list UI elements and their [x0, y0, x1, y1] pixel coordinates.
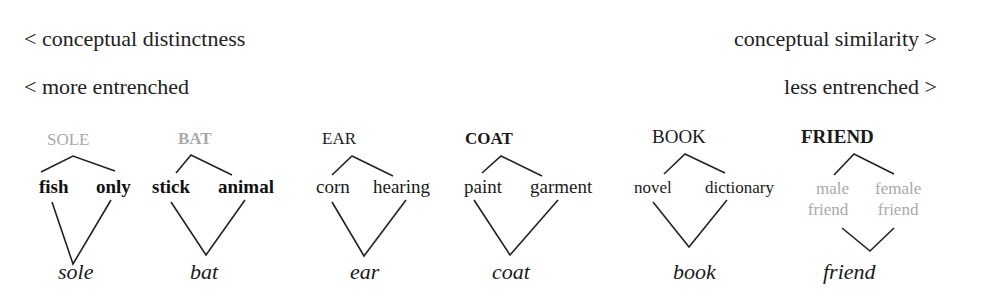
- book-top-chevron: [664, 154, 725, 174]
- friend-sense-female-friend: female friend: [875, 178, 921, 220]
- sole-top-chevron: [41, 156, 115, 172]
- bat-sense-stick: stick: [152, 177, 190, 197]
- bat-top-chevron: [176, 155, 232, 175]
- coat-sense-garment: garment: [530, 177, 592, 197]
- friend-sense-female-line1: female: [875, 178, 921, 199]
- ear-word-form: ear: [350, 260, 379, 284]
- sole-bottom-v: [52, 200, 111, 264]
- friend-word-form: friend: [823, 260, 876, 284]
- bat-sense-animal: animal: [218, 177, 274, 197]
- coat-top-chevron: [482, 156, 542, 176]
- ear-bottom-v: [332, 200, 406, 256]
- ear-sense-hearing: hearing: [373, 177, 430, 197]
- sole-word-form: sole: [58, 260, 93, 284]
- coat-word-form: coat: [492, 260, 530, 284]
- friend-sense-male-line2: friend: [807, 199, 849, 220]
- friend-concept-label: FRIEND: [801, 128, 874, 146]
- friend-sense-male-line1: male: [816, 178, 849, 199]
- friend-top-chevron: [834, 154, 894, 175]
- ear-sense-corn: corn: [316, 177, 350, 197]
- ear-concept-label: EAR: [322, 130, 356, 148]
- sole-sense-only: only: [96, 177, 131, 197]
- coat-concept-label: COAT: [465, 130, 513, 148]
- friend-sense-female-line2: friend: [875, 199, 921, 220]
- book-concept-label: BOOK: [652, 128, 706, 146]
- book-sense-dictionary: dictionary: [705, 178, 774, 198]
- friend-sense-male-friend: male friend: [816, 178, 849, 220]
- bat-word-form: bat: [190, 260, 218, 284]
- diagram-connector-lines: [0, 0, 986, 296]
- coat-sense-paint: paint: [464, 177, 502, 197]
- ear-top-chevron: [332, 156, 393, 176]
- sole-sense-fish: fish: [39, 177, 69, 197]
- friend-bottom-v: [842, 228, 894, 251]
- bat-concept-label: BAT: [178, 130, 212, 148]
- bat-bottom-v: [171, 200, 245, 255]
- sole-concept-label: SOLE: [47, 131, 90, 149]
- book-sense-novel: novel: [634, 178, 672, 198]
- coat-bottom-v: [474, 200, 558, 255]
- book-word-form: book: [673, 260, 716, 284]
- book-bottom-v: [653, 200, 727, 247]
